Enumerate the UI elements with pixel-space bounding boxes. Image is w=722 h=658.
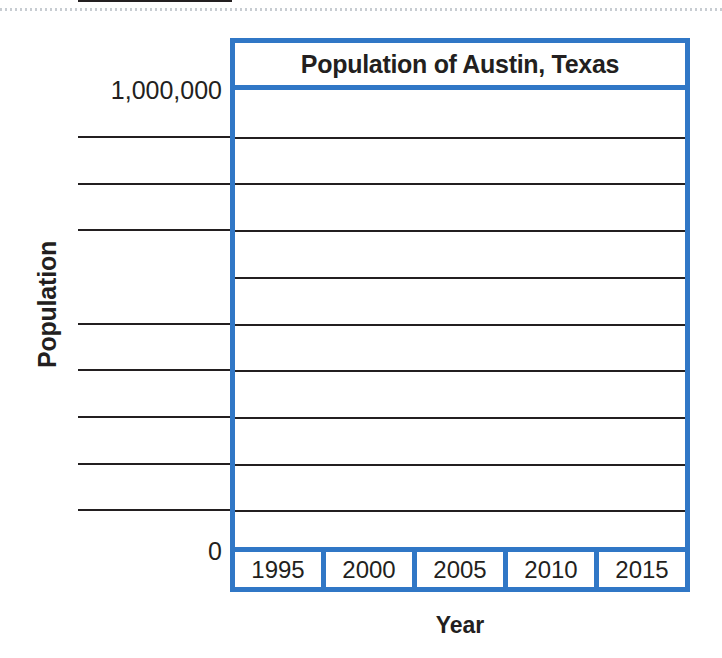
chart-frame: Population of Austin, Texas 1995 2000 20… (230, 38, 690, 592)
x-axis-title: Year (230, 612, 690, 639)
x-axis-cell-2015: 2015 (599, 552, 685, 587)
x-axis-cell-2010: 2010 (508, 552, 599, 587)
x-axis-cell-2000: 2000 (326, 552, 417, 587)
gridline (235, 324, 685, 326)
gridline (235, 183, 685, 185)
y-tick-label-max: 1,000,000 (62, 76, 222, 105)
gridline (235, 417, 685, 419)
x-axis-cell-1995: 1995 (235, 552, 326, 587)
y-tick-mark (78, 509, 232, 511)
y-tick-mark (78, 323, 232, 325)
gridline (235, 370, 685, 372)
gridline (235, 277, 685, 279)
chart-title: Population of Austin, Texas (301, 50, 619, 79)
y-tick-mark (78, 369, 232, 371)
gridline (235, 510, 685, 512)
y-tick-mark (78, 183, 232, 185)
plot-area (235, 90, 685, 557)
chart-title-band: Population of Austin, Texas (235, 43, 685, 90)
y-tick-mark (78, 463, 232, 465)
y-tick-label-min: 0 (62, 537, 222, 566)
gridline (235, 464, 685, 466)
population-bar-chart-figure: Population 1,000,000 0 Population of Aus… (0, 0, 722, 658)
y-tick-mark (78, 229, 232, 231)
x-axis-category-band: 1995 2000 2005 2010 2015 (235, 547, 685, 587)
y-tick-mark (78, 416, 232, 418)
gridline (235, 230, 685, 232)
y-tick-mark (78, 0, 232, 2)
y-tick-mark (78, 136, 232, 138)
x-axis-cell-2005: 2005 (417, 552, 508, 587)
gridline (235, 137, 685, 139)
